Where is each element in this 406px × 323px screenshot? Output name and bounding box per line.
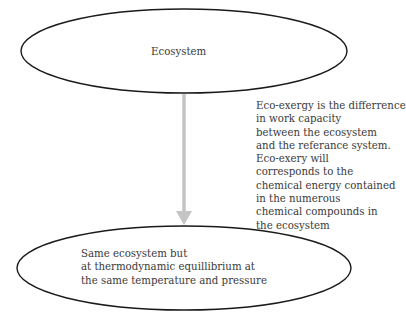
- eco-exergy-annotation: Eco-exergy is the differrence in work ca…: [256, 99, 406, 232]
- annotation-line: and the referance system.: [256, 139, 406, 152]
- equilibrium-line: Same ecosystem but: [81, 247, 267, 260]
- annotation-line: chemical compounds in: [256, 205, 406, 218]
- annotation-line: between the ecosystem: [256, 126, 406, 139]
- annotation-line: Eco-exery will: [256, 152, 406, 165]
- annotation-line: chemical energy contained: [256, 179, 406, 192]
- annotation-line: corresponds to the: [256, 165, 406, 178]
- annotation-line: Eco-exergy is the differrence: [256, 99, 406, 112]
- equilibrium-line: the same temperature and pressure: [81, 274, 267, 287]
- equilibrium-node-label: Same ecosystem but at thermodynamic equi…: [81, 247, 267, 287]
- annotation-line: in work capacity: [256, 112, 406, 125]
- arrow-head: [176, 211, 192, 225]
- ecosystem-node-label: Ecosystem: [151, 45, 206, 58]
- equilibrium-line: at thermodynamic equillibrium at: [81, 260, 267, 273]
- annotation-line: the ecosystem: [256, 219, 406, 232]
- annotation-line: in the numerous: [256, 192, 406, 205]
